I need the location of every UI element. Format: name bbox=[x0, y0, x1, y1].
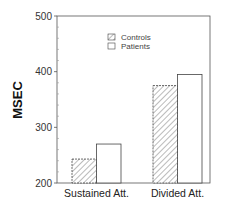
x-category-label: Sustained Att. bbox=[64, 187, 129, 199]
legend-label-controls: Controls bbox=[121, 33, 151, 42]
bar-controls-1 bbox=[153, 86, 178, 183]
x-category-label: Divided Att. bbox=[151, 187, 204, 199]
bar-patients-1 bbox=[178, 74, 203, 183]
bar-controls-0 bbox=[72, 159, 97, 183]
legend-swatch-patients bbox=[108, 43, 115, 49]
y-tick-label: 400 bbox=[35, 66, 52, 77]
legend: ControlsPatients bbox=[108, 33, 151, 51]
y-tick-label: 300 bbox=[35, 122, 52, 133]
y-axis-title: MSEC bbox=[10, 81, 25, 119]
bars bbox=[72, 74, 202, 183]
bar-patients-0 bbox=[97, 144, 122, 183]
y-tick-label: 500 bbox=[35, 11, 52, 22]
y-axis-label: MSEC bbox=[10, 81, 25, 119]
y-tick-label: 200 bbox=[35, 178, 52, 189]
x-axis-labels: Sustained Att.Divided Att. bbox=[64, 187, 204, 199]
legend-swatch-controls bbox=[108, 34, 115, 40]
bar-chart: MSEC 200300400500 Sustained Att.Divided … bbox=[0, 0, 232, 210]
legend-label-patients: Patients bbox=[121, 42, 150, 51]
